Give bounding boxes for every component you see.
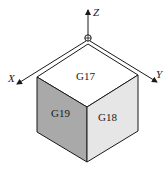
x-axis-label: X	[7, 72, 16, 84]
y-axis-label: Y	[156, 68, 164, 80]
origin-icon	[85, 35, 91, 41]
z-axis-label: Z	[93, 6, 100, 18]
face-top-label: G17	[76, 70, 95, 82]
cube-plane-diagram: Z X Y G17 G19 G18	[0, 0, 168, 172]
face-right-label: G18	[98, 111, 117, 123]
face-left-label: G19	[51, 107, 70, 119]
